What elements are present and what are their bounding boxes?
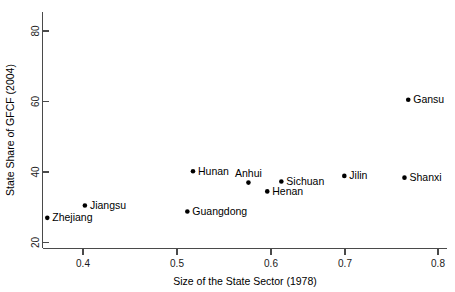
x-tick-label-0-7: 0.7 (338, 258, 352, 269)
point-label: Jiangsu (90, 199, 126, 211)
point-label: Gansu (413, 93, 444, 105)
data-point-jilin: Jilin (342, 169, 368, 181)
x-tick-label-0-5: 0.5 (170, 258, 184, 269)
data-points-layer: ZhejiangJiangsuGuangdongHunanAnhuiHenanS… (45, 93, 444, 223)
y-tick-label-80: 80 (30, 25, 41, 37)
point-label: Shanxi (409, 171, 441, 183)
scatter-plot-figure: 80 60 40 20 0.4 0.5 0.6 0.7 0.8 Size of … (0, 0, 455, 292)
data-point-jiangsu: Jiangsu (83, 199, 127, 211)
point-label: Hunan (198, 165, 229, 177)
y-tick-labels: 80 60 40 20 (30, 25, 41, 248)
point-label: Anhui (235, 167, 262, 179)
x-tick-labels: 0.4 0.5 0.6 0.7 0.8 (76, 258, 445, 269)
y-axis-title: State Share of GFCF (2004) (4, 64, 16, 196)
x-tick-label-0-6: 0.6 (264, 258, 278, 269)
y-tick-label-60: 60 (30, 96, 41, 108)
data-point-gansu: Gansu (406, 93, 444, 105)
point-marker (406, 97, 411, 102)
data-point-sichuan: Sichuan (279, 175, 324, 187)
data-point-anhui: Anhui (235, 167, 262, 185)
x-axis-title: Size of the State Sector (1978) (173, 275, 317, 287)
point-marker (185, 209, 190, 214)
point-marker (83, 203, 88, 208)
point-marker (279, 179, 284, 184)
point-label: Sichuan (286, 175, 324, 187)
data-point-zhejiang: Zhejiang (45, 211, 93, 223)
point-marker (191, 169, 196, 174)
point-marker (342, 174, 347, 179)
x-tick-label-0-4: 0.4 (76, 258, 90, 269)
y-tick-marks (43, 31, 49, 243)
point-label: Zhejiang (52, 211, 92, 223)
data-point-guangdong: Guangdong (185, 205, 247, 217)
point-marker (246, 180, 251, 185)
data-point-hunan: Hunan (191, 165, 229, 177)
point-label: Jilin (349, 169, 367, 181)
point-marker (45, 216, 50, 221)
point-label: Guangdong (192, 205, 247, 217)
data-point-shanxi: Shanxi (402, 171, 441, 183)
plot-canvas: 80 60 40 20 0.4 0.5 0.6 0.7 0.8 Size of … (0, 0, 455, 292)
y-tick-label-40: 40 (30, 166, 41, 178)
point-marker (402, 175, 407, 180)
x-tick-marks (83, 249, 438, 255)
point-marker (265, 189, 270, 194)
y-tick-label-20: 20 (30, 237, 41, 249)
x-tick-label-0-8: 0.8 (431, 258, 445, 269)
